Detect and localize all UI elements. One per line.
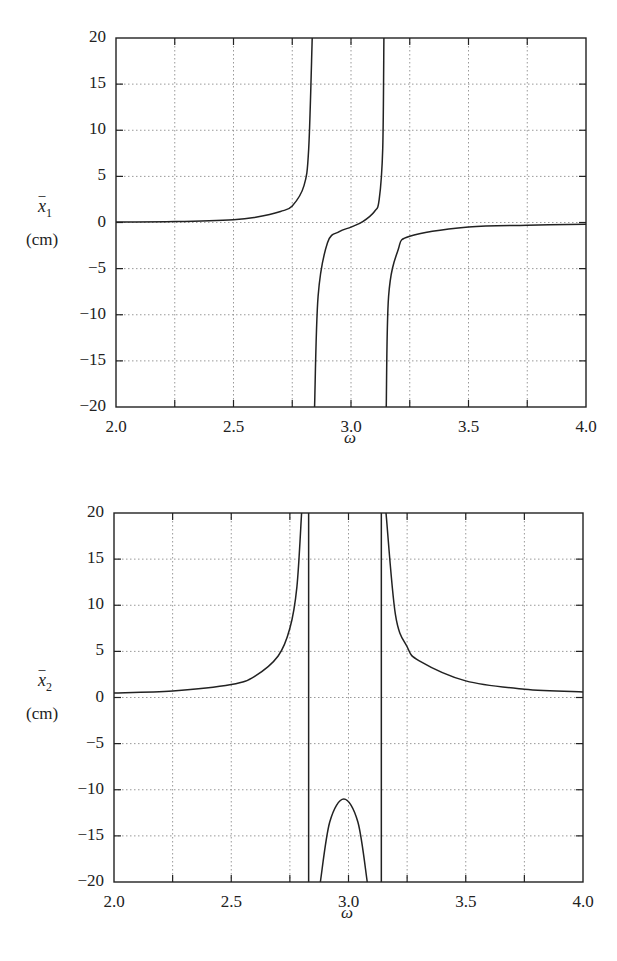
y-tick-label: −20 [64,871,104,891]
chart-x2: ‾x2 (cm) ω 20151050−5−10−15−202.02.53.03… [0,0,617,961]
y-tick-label: 5 [64,640,104,660]
curve-segment [386,513,583,692]
y-tick-label: 10 [64,594,104,614]
overbar: ‾ [39,669,45,690]
y-tick-label: −5 [64,733,104,753]
curve-segment [320,799,367,882]
y-axis-unit-x2: (cm) [26,704,58,724]
x-tick-label: 3.5 [446,892,486,912]
y-tick-label: −15 [64,825,104,845]
x-tick-label: 3.0 [329,892,369,912]
y-tick-label: −10 [64,779,104,799]
y-tick-label: 0 [64,687,104,707]
curve-segment [114,513,302,693]
y-tick-label: 20 [64,502,104,522]
y-axis-symbol-x2: ‾x2 [38,670,52,695]
x-tick-label: 2.5 [211,892,251,912]
x-tick-label: 4.0 [563,892,603,912]
y-tick-label: 15 [64,548,104,568]
plot-area-x2 [0,0,617,961]
x-tick-label: 2.0 [94,892,134,912]
y-subscript: 2 [46,680,52,694]
grid [114,513,583,882]
